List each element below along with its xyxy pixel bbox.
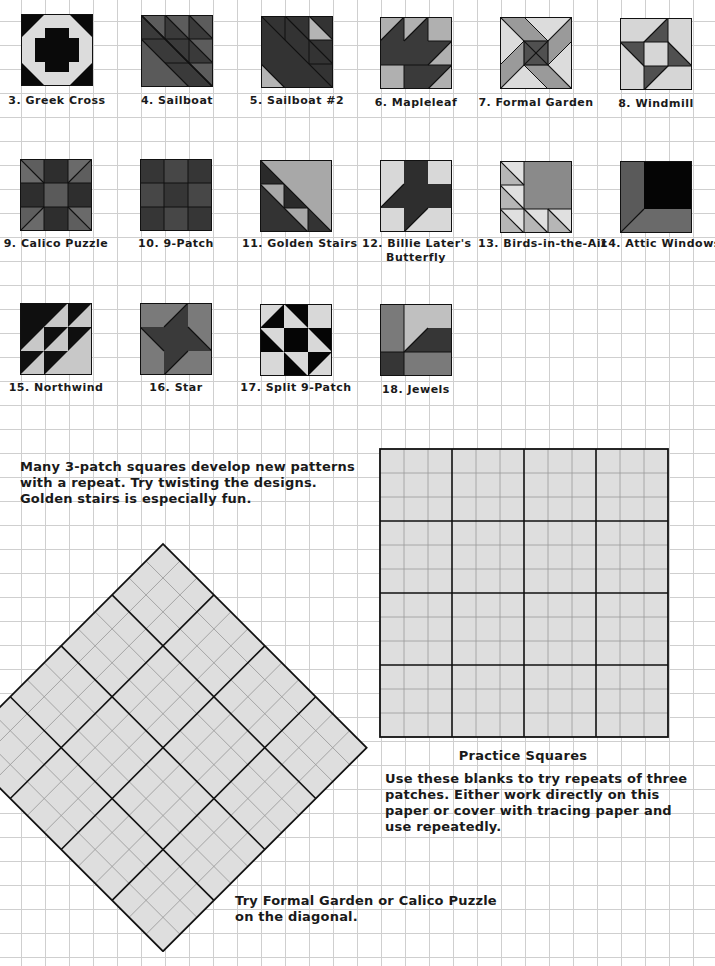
- label-billie-laters-butterfly: 12. Billie Later's: [362, 237, 470, 251]
- split-9-patch-pattern-icon: [260, 304, 332, 376]
- star-pattern-icon: [140, 303, 212, 375]
- block-formal-garden: [500, 17, 572, 89]
- repeat-note-line: Golden stairs is especially fun.: [20, 491, 355, 507]
- label-billie-laters-butterfly-line2: Butterfly: [362, 251, 470, 265]
- diagonal-note-line: on the diagonal.: [235, 909, 497, 925]
- block-northwind: [20, 303, 92, 375]
- label-mapleleaf: 6. Mapleleaf: [364, 96, 468, 110]
- label-golden-stairs: 11. Golden Stairs: [242, 237, 350, 251]
- label-northwind: 15. Northwind: [4, 381, 108, 395]
- block-attic-windows: [620, 161, 692, 233]
- block-golden-stairs: [260, 160, 332, 232]
- block-sailboat: [141, 15, 213, 87]
- repeat-note: Many 3-patch squares develop new pattern…: [20, 459, 355, 507]
- diagonal-practice-grid[interactable]: [0, 542, 368, 952]
- label-star: 16. Star: [124, 381, 228, 395]
- block-greek-cross: [21, 14, 93, 86]
- practice-note-line: patches. Either work directly on this: [385, 787, 687, 803]
- label-jewels: 18. Jewels: [364, 383, 468, 397]
- label-sailboat: 4. Sailboat: [125, 94, 229, 108]
- label-calico-puzzle: 9. Calico Puzzle: [2, 237, 110, 251]
- block-windmill: [620, 18, 692, 90]
- golden-stairs-pattern-icon: [260, 160, 332, 232]
- practice-note: Use these blanks to try repeats of three…: [385, 771, 687, 835]
- label-sailboat-2: 5. Sailboat #2: [245, 94, 349, 108]
- block-calico-puzzle: [20, 159, 92, 231]
- block-birds-in-the-air: [500, 161, 572, 233]
- block-jewels: [380, 304, 452, 376]
- practice-note-line: Use these blanks to try repeats of three: [385, 771, 687, 787]
- attic-windows-pattern-icon: [620, 161, 692, 233]
- mapleleaf-pattern-icon: [380, 17, 452, 89]
- block-nine-patch: [140, 159, 212, 231]
- practice-squares-title: Practice Squares: [379, 748, 667, 763]
- block-mapleleaf: [380, 17, 452, 89]
- sailboat-pattern-icon: [141, 15, 213, 87]
- calico-puzzle-pattern-icon: [20, 159, 92, 231]
- label-birds-in-the-air: 13. Birds-in-the-Air: [478, 237, 594, 251]
- butterfly-pattern-icon: [380, 160, 452, 232]
- diagonal-note-line: Try Formal Garden or Calico Puzzle: [235, 893, 497, 909]
- practice-note-line: paper or cover with tracing paper and: [385, 803, 687, 819]
- formal-garden-pattern-icon: [500, 17, 572, 89]
- sailboat-2-pattern-icon: [261, 16, 333, 88]
- diagonal-note: Try Formal Garden or Calico Puzzle on th…: [235, 893, 497, 925]
- block-split-9-patch: [260, 304, 332, 376]
- label-split-9-patch: 17. Split 9-Patch: [240, 381, 352, 395]
- nine-patch-pattern-icon: [140, 159, 212, 231]
- label-attic-windows: 14. Attic Windows: [600, 237, 715, 251]
- birds-in-the-air-pattern-icon: [500, 161, 572, 233]
- jewels-pattern-icon: [380, 304, 452, 376]
- block-sailboat-2: [261, 16, 333, 88]
- greek-cross-pattern-icon: [21, 14, 93, 86]
- label-nine-patch: 10. 9-Patch: [124, 237, 228, 251]
- practice-note-line: use repeatedly.: [385, 819, 687, 835]
- label-windmill: 8. Windmill: [604, 97, 708, 111]
- label-formal-garden: 7. Formal Garden: [478, 96, 594, 110]
- northwind-pattern-icon: [20, 303, 92, 375]
- practice-squares-grid[interactable]: [379, 448, 669, 739]
- windmill-pattern-icon: [620, 18, 692, 90]
- repeat-note-line: with a repeat. Try twisting the designs.: [20, 475, 355, 491]
- block-billie-laters-butterfly: [380, 160, 452, 232]
- block-star: [140, 303, 212, 375]
- repeat-note-line: Many 3-patch squares develop new pattern…: [20, 459, 355, 475]
- label-greek-cross: 3. Greek Cross: [5, 94, 109, 108]
